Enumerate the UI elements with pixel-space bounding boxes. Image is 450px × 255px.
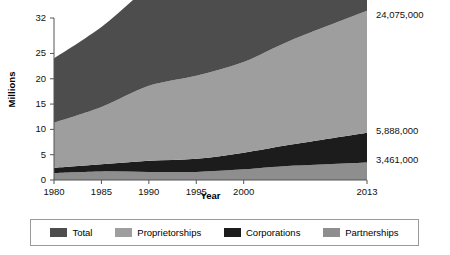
legend-label: Total [72, 227, 92, 238]
x-tick-label: 1980 [34, 186, 74, 197]
x-tick-label: 1985 [81, 186, 121, 197]
annotation-label: 3,461,000 [376, 154, 418, 165]
legend-item: Proprietorships [115, 227, 201, 238]
legend-swatch [323, 228, 340, 237]
y-tick-label: 0 [20, 174, 46, 185]
stacked-area-plot [0, 0, 450, 205]
x-tick-label: 1995 [176, 186, 216, 197]
y-tick-label: 15 [20, 98, 46, 109]
area-bands [54, 0, 367, 180]
x-tick-label: 2013 [347, 186, 387, 197]
legend-swatch [224, 228, 241, 237]
legend-label: Proprietorships [137, 227, 201, 238]
x-tick-label: 1990 [129, 186, 169, 197]
y-tick-label: 25 [20, 47, 46, 58]
chart-screenshot: Millions Year 051015202532 1980198519901… [0, 0, 450, 255]
legend-swatch [115, 228, 132, 237]
annotation-label: 24,075,000 [376, 9, 424, 20]
y-tick-label: 20 [20, 73, 46, 84]
legend-swatch [50, 228, 67, 237]
legend-label: Partnerships [345, 227, 398, 238]
chart-legend: TotalProprietorshipsCorporationsPartners… [30, 219, 419, 246]
x-tick-label: 2000 [224, 186, 264, 197]
y-tick-label: 5 [20, 149, 46, 160]
chart-area: Millions Year 051015202532 1980198519901… [0, 0, 450, 205]
y-tick-label: 32 [20, 12, 46, 23]
legend-item: Total [50, 227, 92, 238]
y-axis-title: Millions [6, 53, 17, 127]
legend-item: Partnerships [323, 227, 398, 238]
legend-item: Corporations [224, 227, 300, 238]
y-tick-label: 10 [20, 123, 46, 134]
legend-label: Corporations [246, 227, 300, 238]
annotation-label: 5,888,000 [376, 125, 418, 136]
